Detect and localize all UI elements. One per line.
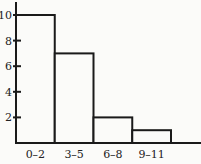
y-tick-label: 2: [5, 111, 12, 124]
y-tick-label: 4: [5, 86, 12, 99]
x-tick-label: 6–8: [103, 148, 123, 161]
x-tick-label: 0–2: [26, 148, 46, 161]
bar-2: [94, 117, 133, 143]
y-tick-label: 6: [5, 60, 12, 73]
histogram-chart: 246810 0–23–56–89–11: [0, 0, 201, 164]
bars: [16, 15, 171, 143]
bar-1: [55, 53, 94, 143]
x-tick-label: 9–11: [138, 148, 165, 161]
bar-3: [132, 130, 171, 143]
bar-0: [16, 15, 55, 143]
y-tick-label: 8: [5, 35, 12, 48]
x-tick-labels: 0–23–56–89–11: [26, 148, 165, 161]
y-tick-label: 10: [0, 9, 12, 22]
x-tick-label: 3–5: [64, 148, 84, 161]
